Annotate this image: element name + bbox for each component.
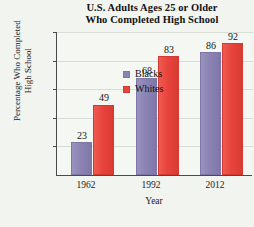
bar-1962-blacks[interactable]	[71, 142, 92, 175]
plot-area: 23 49 68 83 86 92 Blacks Whites	[56, 32, 252, 175]
legend-swatch-whites-icon	[123, 86, 130, 93]
y-tick-mark-60	[53, 89, 57, 90]
legend-label-blacks: Blacks	[135, 69, 162, 79]
x-axis-line	[56, 175, 252, 176]
legend-swatch-blacks-icon	[123, 71, 130, 78]
bar-2012-blacks[interactable]	[200, 52, 221, 175]
chart-title-line-1: U.S. Adults Ages 25 or Older	[52, 2, 252, 14]
y-tick-mark-20	[53, 146, 57, 147]
x-tick-label-1962: 1962	[56, 181, 116, 191]
y-tick-mark-80	[53, 61, 57, 62]
y-axis-title-line-1: Percentage Who Completed	[12, 0, 23, 156]
y-axis-title: Percentage Who Completed High School	[12, 0, 33, 156]
bar-group-1962: 23 49	[71, 32, 114, 175]
chart-title: U.S. Adults Ages 25 or Older Who Complet…	[52, 2, 252, 27]
y-tick-mark-40	[53, 118, 57, 119]
bar-group-2012: 86 92	[200, 32, 243, 175]
bar-2012-whites[interactable]	[222, 43, 243, 175]
legend: Blacks Whites	[123, 67, 185, 97]
x-axis-title: Year	[56, 196, 252, 206]
bar-chart-figure: U.S. Adults Ages 25 or Older Who Complet…	[0, 0, 254, 227]
legend-item-blacks[interactable]: Blacks	[123, 67, 185, 81]
y-axis-title-line-2: High School	[23, 0, 34, 156]
bar-value-2012-whites: 92	[218, 32, 248, 42]
bar-group-1992: 68 83	[136, 32, 179, 175]
legend-item-whites[interactable]: Whites	[123, 82, 185, 96]
bar-value-1962-whites: 49	[89, 93, 119, 103]
chart-title-line-2: Who Completed High School	[52, 14, 252, 26]
y-tick-mark-100	[53, 32, 57, 33]
legend-label-whites: Whites	[135, 84, 163, 94]
bar-value-1992-whites: 83	[154, 45, 184, 55]
x-tick-label-1992: 1992	[121, 181, 181, 191]
x-tick-label-2012: 2012	[185, 181, 245, 191]
bar-1962-whites[interactable]	[93, 105, 114, 175]
